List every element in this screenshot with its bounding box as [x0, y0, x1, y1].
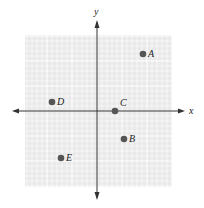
point-label: D: [56, 96, 65, 107]
y-axis-up-arrow-icon: [95, 20, 100, 28]
point-marker-icon: [140, 51, 147, 58]
x-axis-left-arrow-icon: [12, 109, 19, 114]
y-axis-label: y: [93, 6, 99, 17]
y-axis-down-arrow-icon: [95, 192, 100, 200]
point-marker-icon: [49, 99, 56, 106]
point-label: E: [65, 152, 72, 163]
point-marker-icon: [58, 155, 65, 162]
x-axis-right-arrow-icon: [178, 109, 185, 114]
x-axis-label: x: [188, 105, 194, 116]
point-marker-icon: [112, 108, 119, 115]
point-marker-icon: [121, 136, 128, 143]
point-label: A: [147, 48, 155, 59]
point-label: B: [129, 133, 135, 144]
coordinate-plane: x y ABCDE: [0, 0, 204, 208]
point-label: C: [120, 97, 127, 108]
